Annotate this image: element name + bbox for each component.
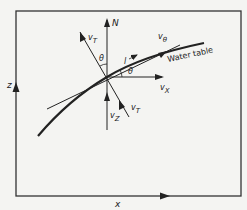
v-t-upper-label: vT: [88, 33, 98, 45]
z-axis-arrow-icon: [13, 82, 20, 92]
l-direction-arrow: [129, 55, 137, 59]
theta-upper-label: θ: [99, 54, 104, 63]
v-theta-label: vθ: [158, 32, 168, 44]
v-t-lower-label: vT: [131, 103, 141, 115]
n-arrow-icon: [104, 18, 110, 27]
frame-box: [16, 11, 241, 196]
theta-right-label: θ: [128, 67, 133, 76]
v-x-label: vX: [160, 83, 170, 95]
theta-upper-arc: [100, 64, 107, 66]
z-axis-label: z: [6, 80, 12, 90]
v-z-label: vZ: [110, 111, 120, 123]
v-x-arrow-icon: [155, 74, 164, 80]
v-z-arrow-icon: [104, 92, 110, 101]
normal-label: N: [112, 18, 119, 28]
tangent-length-label: l: [124, 57, 127, 66]
x-axis-arrow-icon: [160, 193, 170, 200]
diagram: z x Water table vθ l N vZ vX vT: [0, 0, 247, 210]
x-axis-label: x: [114, 199, 121, 209]
